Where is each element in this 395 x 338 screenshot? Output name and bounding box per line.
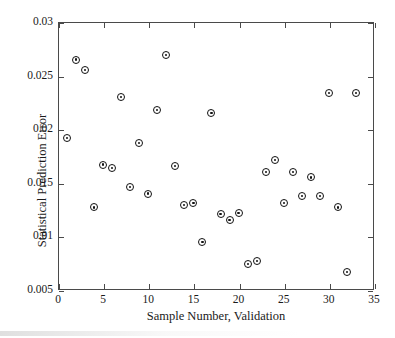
y-tick-0.03: [368, 23, 373, 24]
x-tick-label-20: 20: [219, 293, 259, 306]
data-point: [289, 168, 297, 176]
data-point: [144, 190, 152, 198]
y-axis-title: Statistical Prediction Error: [35, 47, 50, 315]
x-tick-30: [330, 284, 331, 289]
y-tick-0.025: [368, 77, 373, 78]
data-point: [108, 164, 116, 172]
y-tick-0.025: [59, 77, 64, 78]
x-tick-label-15: 15: [173, 293, 213, 306]
data-point: [298, 192, 306, 200]
x-tick-20: [240, 284, 241, 289]
x-tick-5: [104, 284, 105, 289]
x-tick-35: [375, 23, 376, 28]
data-point: [280, 199, 288, 207]
x-tick-5: [104, 23, 105, 28]
data-point: [262, 168, 270, 176]
y-tick-0.015: [368, 184, 373, 185]
x-tick-label-30: 30: [309, 293, 349, 306]
x-tick-15: [194, 284, 195, 289]
y-tick-0.02: [368, 130, 373, 131]
data-point: [325, 89, 333, 97]
plot-area: [58, 22, 374, 290]
data-point: [244, 260, 252, 268]
x-tick-35: [375, 284, 376, 289]
x-tick-label-25: 25: [264, 293, 304, 306]
x-tick-label-10: 10: [128, 293, 168, 306]
scatter-plot-figure: 0.0050.010.0150.020.0250.03 051015202530…: [0, 0, 395, 338]
y-tick-0.01: [59, 237, 64, 238]
scan-artifact: [0, 331, 300, 336]
x-tick-25: [285, 23, 286, 28]
x-tick-30: [330, 23, 331, 28]
data-point: [235, 209, 243, 217]
data-point: [343, 268, 351, 276]
data-point: [253, 257, 261, 265]
x-tick-0: [59, 284, 60, 289]
x-axis-title: Sample Number, Validation: [58, 309, 374, 324]
data-point: [63, 134, 71, 142]
y-tick-0.005: [368, 291, 373, 292]
y-tick-0.02: [59, 130, 64, 131]
y-axis-title-wrapper: Statistical Prediction Error: [8, 22, 22, 290]
data-point: [72, 56, 80, 64]
data-point: [99, 161, 107, 169]
data-point: [316, 192, 324, 200]
y-tick-0.01: [368, 237, 373, 238]
y-tick-0.015: [59, 184, 64, 185]
data-point: [217, 210, 225, 218]
y-tick-0.005: [59, 291, 64, 292]
x-tick-15: [194, 23, 195, 28]
x-tick-25: [285, 284, 286, 289]
x-tick-10: [149, 284, 150, 289]
x-tick-label-5: 5: [83, 293, 123, 306]
data-point: [171, 162, 179, 170]
x-tick-label-35: 35: [354, 293, 394, 306]
y-tick-0.03: [59, 23, 64, 24]
data-point: [271, 156, 279, 164]
data-point: [226, 216, 234, 224]
data-point: [352, 89, 360, 97]
x-tick-10: [149, 23, 150, 28]
x-tick-20: [240, 23, 241, 28]
